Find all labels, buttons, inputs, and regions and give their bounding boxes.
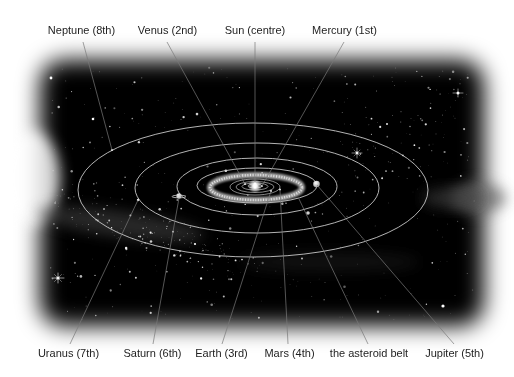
star <box>472 290 473 291</box>
star <box>73 196 75 198</box>
star <box>124 113 125 114</box>
star <box>50 267 51 268</box>
star <box>235 116 236 117</box>
star <box>181 250 182 251</box>
star <box>462 228 464 230</box>
star <box>94 198 95 199</box>
star <box>322 205 323 206</box>
star <box>392 153 393 154</box>
star <box>71 217 72 218</box>
star <box>161 237 162 238</box>
star <box>239 113 240 114</box>
star <box>460 79 461 80</box>
star <box>352 142 353 143</box>
star <box>289 96 291 98</box>
star <box>460 175 462 177</box>
star <box>394 319 395 320</box>
star <box>103 214 105 216</box>
star <box>309 151 310 152</box>
star <box>94 117 95 118</box>
star <box>149 219 150 220</box>
star <box>57 106 60 109</box>
star <box>200 235 201 236</box>
star <box>256 161 257 162</box>
star <box>433 215 434 216</box>
star <box>428 165 429 166</box>
star <box>374 153 375 154</box>
star <box>53 223 54 224</box>
star <box>146 222 147 223</box>
star <box>51 112 53 114</box>
star <box>72 192 73 193</box>
star <box>385 295 386 296</box>
star <box>66 97 67 98</box>
star <box>83 179 84 180</box>
star <box>165 314 166 315</box>
star <box>310 282 311 283</box>
star <box>109 126 111 128</box>
star <box>209 290 210 291</box>
star <box>225 162 226 163</box>
star <box>224 206 225 207</box>
star <box>366 117 367 118</box>
star <box>421 119 423 121</box>
star <box>158 173 159 174</box>
star <box>149 229 150 230</box>
star <box>232 87 233 88</box>
star <box>328 231 329 232</box>
star <box>139 235 141 237</box>
star <box>278 243 279 244</box>
star <box>80 275 83 278</box>
star <box>389 315 390 316</box>
star <box>141 209 142 210</box>
star <box>401 111 402 112</box>
star <box>147 242 148 243</box>
star <box>146 227 147 228</box>
star <box>342 74 343 75</box>
star <box>113 107 115 109</box>
star <box>216 104 218 106</box>
star <box>214 303 215 304</box>
star <box>418 147 420 149</box>
star <box>259 265 260 266</box>
star <box>234 151 236 153</box>
star <box>176 254 177 255</box>
star <box>157 271 158 272</box>
star <box>224 253 225 254</box>
star <box>208 67 210 69</box>
star <box>444 134 445 135</box>
star <box>70 282 71 283</box>
star <box>155 265 156 266</box>
star <box>350 124 351 125</box>
star <box>343 286 346 289</box>
solar-system-diagram: Neptune (8th) Venus (2nd) Sun (centre) M… <box>0 0 514 377</box>
star <box>92 259 93 260</box>
star <box>111 227 112 228</box>
star <box>182 116 184 118</box>
star <box>399 176 400 177</box>
label-sun: Sun (centre) <box>225 24 286 36</box>
star <box>266 244 267 245</box>
star <box>190 258 192 260</box>
star <box>462 98 463 99</box>
star <box>61 196 62 197</box>
star <box>126 255 127 256</box>
star <box>154 232 155 233</box>
star <box>455 118 456 119</box>
star <box>465 253 466 254</box>
star <box>347 295 348 296</box>
star <box>340 247 341 248</box>
star <box>173 254 175 256</box>
star <box>421 76 422 77</box>
star <box>112 232 113 233</box>
star <box>341 276 342 277</box>
star <box>96 182 97 183</box>
star <box>324 299 325 300</box>
star <box>94 190 95 191</box>
star <box>299 135 300 136</box>
bright-star-icon <box>441 304 444 307</box>
star <box>357 177 359 179</box>
star <box>143 216 145 218</box>
star <box>337 181 338 182</box>
star <box>286 129 287 130</box>
